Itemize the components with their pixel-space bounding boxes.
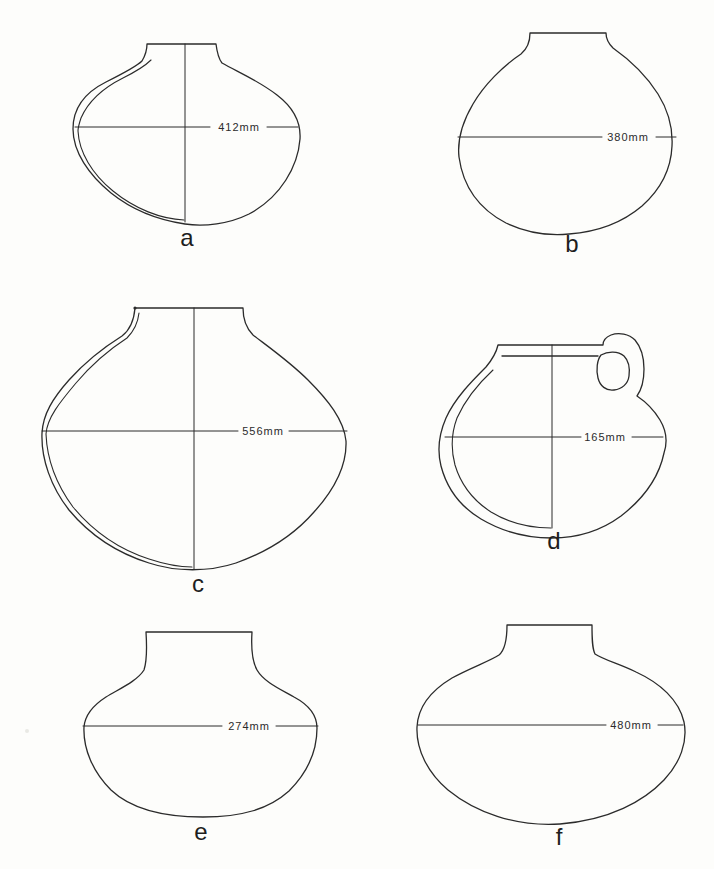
vessel-d-outline xyxy=(439,334,666,538)
vessel-f: 480mm f xyxy=(417,625,685,850)
vessel-e-outline xyxy=(84,632,317,817)
vessel-d-handle-opening xyxy=(597,352,629,390)
vessel-a-letter: a xyxy=(180,224,194,251)
vessel-d-letter: d xyxy=(547,527,560,554)
vessel-b-letter: b xyxy=(565,230,578,257)
vessel-e: 274mm e xyxy=(83,632,318,845)
vessel-d-inner-wall-line xyxy=(452,370,551,528)
vessel-a-outline xyxy=(73,44,300,225)
vessel-b-diameter-label: 380mm xyxy=(607,131,649,143)
vessel-d-diameter-label: 165mm xyxy=(584,431,626,443)
vessel-b: 380mm b xyxy=(458,33,676,257)
vessel-figure-canvas: 412mm a 380mm b 556mm c xyxy=(0,0,714,869)
vessel-c-letter: c xyxy=(192,570,204,597)
vessel-c-diameter-label: 556mm xyxy=(242,425,284,437)
vessel-f-letter: f xyxy=(556,823,563,850)
vessel-a-inner-wall-line xyxy=(78,60,184,220)
vessel-c-rim-dot xyxy=(133,306,136,309)
paper-speck xyxy=(25,729,29,733)
vessel-a-diameter-label: 412mm xyxy=(218,121,260,133)
vessel-a: 412mm a xyxy=(73,44,300,251)
vessel-d: 165mm d xyxy=(439,334,666,554)
vessel-e-letter: e xyxy=(194,818,207,845)
scanned-figure-page: 412mm a 380mm b 556mm c xyxy=(0,0,714,869)
vessel-f-diameter-label: 480mm xyxy=(610,719,652,731)
vessel-c: 556mm c xyxy=(42,306,347,597)
vessel-e-diameter-label: 274mm xyxy=(228,720,270,732)
vessel-c-inner-wall-line xyxy=(46,313,192,567)
